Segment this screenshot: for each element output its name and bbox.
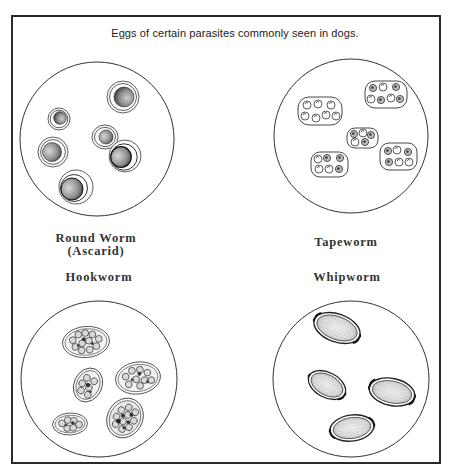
whipworm-egg (302, 364, 352, 406)
roundworm-egg (107, 81, 139, 113)
hookworm-egg (68, 363, 108, 407)
whipworm-egg (365, 374, 419, 411)
panel-roundworm (20, 62, 174, 216)
panel-whipworm (273, 301, 429, 457)
panel-hookworm (21, 301, 177, 457)
hookworm-egg (52, 412, 88, 436)
tapeworm-egg-packet (347, 128, 378, 148)
parasite-eggs-illustration (0, 0, 455, 474)
tapeworm-egg-packet (311, 152, 348, 177)
whipworm-egg (308, 306, 366, 350)
whipworm-egg (327, 412, 377, 444)
hookworm-egg (61, 325, 111, 360)
hookworm-egg (113, 359, 162, 397)
roundworm-egg (48, 108, 70, 130)
hookworm-egg (100, 391, 151, 444)
panel-tapeworm (274, 59, 428, 213)
roundworm-egg (109, 140, 141, 172)
tapeworm-egg-packet (380, 143, 417, 170)
tapeworm-egg-packet (365, 81, 407, 108)
roundworm-egg (38, 137, 68, 167)
tapeworm-egg-packet (298, 97, 342, 125)
roundworm-egg (59, 170, 93, 204)
